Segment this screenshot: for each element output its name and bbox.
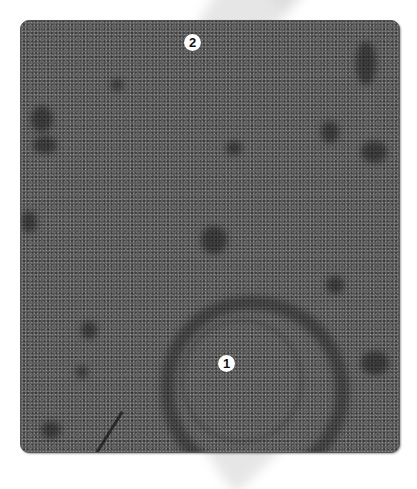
dark-patch <box>326 276 344 294</box>
crack-line <box>84 411 124 453</box>
dark-patch <box>31 106 53 132</box>
dark-patch <box>41 421 61 439</box>
dark-patch <box>33 136 57 154</box>
inner-ring <box>181 319 303 443</box>
dark-patch <box>21 211 37 233</box>
dark-patch <box>361 141 387 163</box>
dark-patch <box>81 321 97 339</box>
aerial-photo: 2 1 <box>20 20 400 453</box>
dark-patch <box>321 121 339 143</box>
dark-patch <box>226 141 242 155</box>
marker-1: 1 <box>218 355 235 372</box>
dark-patch <box>361 351 389 375</box>
dark-patch <box>201 226 227 254</box>
dark-patch <box>356 41 376 85</box>
dark-patch <box>111 79 123 91</box>
marker-2: 2 <box>184 34 201 51</box>
dark-patch <box>76 366 88 378</box>
